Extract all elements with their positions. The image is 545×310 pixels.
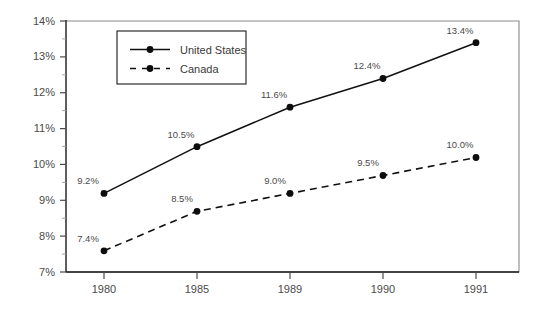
y-tick-label-14: 14% bbox=[33, 15, 55, 27]
us-point-1985 bbox=[194, 143, 201, 150]
x-tick-label-1980: 1980 bbox=[92, 283, 116, 295]
line-chart-figure: 7% 8% 9% 10% 11% 12% 13% 14% 1980 1985 1… bbox=[0, 0, 545, 310]
us-label-1991: 13.4% bbox=[447, 25, 474, 36]
x-axis-tick-labels: 1980 1985 1989 1990 1991 bbox=[92, 283, 488, 295]
series-canada bbox=[101, 154, 480, 254]
y-tick-label-13: 13% bbox=[33, 50, 55, 62]
us-label-1990: 12.4% bbox=[354, 60, 381, 71]
x-axis-ticks bbox=[104, 272, 476, 279]
y-tick-label-7: 7% bbox=[39, 266, 55, 278]
legend-swatch-marker-canada bbox=[147, 65, 154, 72]
us-label-1980: 9.2% bbox=[77, 175, 99, 186]
canada-line bbox=[104, 158, 476, 251]
x-tick-label-1989: 1989 bbox=[278, 283, 302, 295]
canada-label-1980: 7.4% bbox=[77, 233, 99, 244]
y-tick-label-9: 9% bbox=[39, 194, 55, 206]
canada-label-1991: 10.0% bbox=[447, 139, 474, 150]
us-label-1989: 11.6% bbox=[261, 89, 288, 100]
canada-label-1990: 9.5% bbox=[357, 157, 379, 168]
legend-label-united-states: United States bbox=[180, 44, 247, 56]
canada-data-labels: 7.4% 8.5% 9.0% 9.5% 10.0% bbox=[77, 139, 474, 244]
legend-label-canada: Canada bbox=[180, 63, 219, 75]
us-point-1990 bbox=[380, 75, 387, 82]
x-tick-label-1985: 1985 bbox=[185, 283, 209, 295]
legend-swatch-marker-us bbox=[147, 46, 154, 53]
canada-point-1985 bbox=[194, 208, 201, 215]
us-point-1980 bbox=[101, 190, 108, 197]
chart-canvas: 7% 8% 9% 10% 11% 12% 13% 14% 1980 1985 1… bbox=[0, 0, 545, 310]
x-tick-label-1990: 1990 bbox=[371, 283, 395, 295]
chart-legend[interactable]: United States Canada bbox=[117, 31, 247, 84]
canada-point-1980 bbox=[101, 247, 108, 254]
y-axis-tick-labels: 7% 8% 9% 10% 11% 12% 13% 14% bbox=[33, 15, 55, 278]
canada-point-1989 bbox=[287, 190, 294, 197]
y-tick-label-12: 12% bbox=[33, 86, 55, 98]
canada-label-1985: 8.5% bbox=[171, 193, 193, 204]
us-point-1991 bbox=[473, 39, 480, 46]
y-tick-label-11: 11% bbox=[34, 122, 55, 134]
x-tick-label-1991: 1991 bbox=[464, 283, 488, 295]
y-axis-ticks bbox=[60, 21, 66, 272]
us-point-1989 bbox=[287, 104, 294, 111]
canada-point-1991 bbox=[473, 154, 480, 161]
legend-box bbox=[117, 31, 246, 84]
us-label-1985: 10.5% bbox=[168, 129, 195, 140]
canada-point-1990 bbox=[380, 172, 387, 179]
y-tick-label-8: 8% bbox=[39, 230, 55, 242]
canada-label-1989: 9.0% bbox=[264, 175, 286, 186]
y-tick-label-10: 10% bbox=[33, 158, 55, 170]
